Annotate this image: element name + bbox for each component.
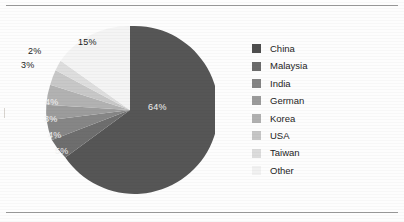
legend-swatch-usa: [252, 131, 261, 140]
legend-swatch-india: [252, 79, 261, 88]
slice-label-korea: 4%: [45, 97, 58, 107]
legend-swatch-china: [252, 44, 261, 53]
pie-chart-figure: 64% 5% 4% 3% 4% 15% 2% 3% China Malaysia…: [0, 0, 404, 222]
legend-label-taiwan: Taiwan: [270, 148, 300, 158]
legend-item-usa[interactable]: USA: [252, 127, 362, 144]
left-rule-fragment: [4, 108, 5, 118]
slice-label-india: 4%: [48, 130, 61, 140]
slice-label-usa: 3%: [21, 60, 34, 70]
legend-item-other[interactable]: Other: [252, 162, 362, 179]
legend-label-other: Other: [270, 166, 294, 176]
top-rule: [6, 5, 398, 6]
legend-item-india[interactable]: India: [252, 75, 362, 92]
chart-legend: China Malaysia India German Korea USA Ta…: [252, 40, 362, 179]
legend-item-malaysia[interactable]: Malaysia: [252, 57, 362, 74]
legend-swatch-malaysia: [252, 62, 261, 71]
legend-swatch-other: [252, 166, 261, 175]
legend-label-korea: Korea: [270, 114, 295, 124]
slice-label-china: 64%: [148, 102, 167, 112]
legend-label-german: German: [270, 96, 304, 106]
slice-label-other: 15%: [78, 37, 97, 47]
pie-plot-area: 64% 5% 4% 3% 4% 15%: [45, 18, 215, 202]
legend-item-taiwan[interactable]: Taiwan: [252, 144, 362, 161]
legend-item-china[interactable]: China: [252, 40, 362, 57]
slice-label-malaysia: 5%: [55, 146, 68, 156]
legend-label-india: India: [270, 79, 291, 89]
pie-svg: [45, 18, 215, 202]
legend-label-malaysia: Malaysia: [270, 61, 308, 71]
legend-label-china: China: [270, 44, 295, 54]
legend-swatch-taiwan: [252, 149, 261, 158]
legend-swatch-korea: [252, 114, 261, 123]
legend-item-korea[interactable]: Korea: [252, 110, 362, 127]
slice-label-taiwan: 2%: [28, 46, 41, 56]
legend-swatch-german: [252, 96, 261, 105]
slice-label-german: 3%: [44, 114, 57, 124]
legend-label-usa: USA: [270, 131, 290, 141]
bottom-rule: [6, 212, 398, 213]
legend-item-german[interactable]: German: [252, 92, 362, 109]
